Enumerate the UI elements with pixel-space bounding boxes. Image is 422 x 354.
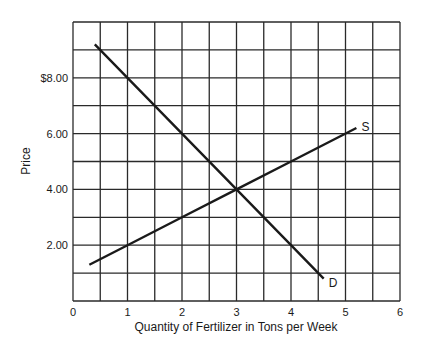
x-tick-label: 6	[397, 306, 403, 318]
supply-curve-label: S	[361, 120, 369, 134]
y-axis-ticks: 2.004.006.00$8.00	[40, 72, 68, 251]
y-tick-label: 4.00	[47, 183, 68, 195]
y-tick-label: $8.00	[40, 72, 68, 84]
supply-curve	[89, 128, 356, 265]
supply-demand-chart: DS 0123456 2.004.006.00$8.00 Quantity of…	[0, 0, 422, 354]
plot-grid	[73, 22, 400, 301]
x-tick-label: 5	[342, 306, 348, 318]
y-axis-title: Price	[19, 147, 33, 175]
x-axis-ticks: 0123456	[70, 306, 403, 318]
x-tick-label: 2	[179, 306, 185, 318]
y-tick-label: 6.00	[47, 128, 68, 140]
x-tick-label: 1	[124, 306, 130, 318]
x-tick-label: 4	[288, 306, 294, 318]
y-tick-label: 2.00	[47, 239, 68, 251]
demand-curve-label: D	[329, 276, 338, 290]
x-tick-label: 0	[70, 306, 76, 318]
curves: DS	[89, 44, 369, 289]
x-axis-title: Quantity of Fertilizer in Tons per Week	[135, 320, 339, 334]
x-tick-label: 3	[233, 306, 239, 318]
